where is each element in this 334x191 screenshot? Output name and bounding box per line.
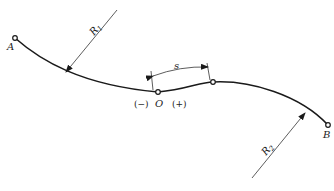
s-extension-right	[207, 63, 210, 80]
point-b-marker	[326, 123, 331, 128]
positive-side-label: (+)	[172, 99, 187, 109]
point-b-label: B	[322, 129, 330, 140]
reverse-curve-diagram: R1 R2 s A B O (−) (+)	[0, 0, 334, 191]
origin-marker	[156, 90, 161, 95]
s-dimension-arc	[153, 67, 208, 76]
radius-1-line	[66, 10, 117, 72]
point-a-label: A	[6, 41, 14, 52]
point-a-marker	[13, 36, 18, 41]
negative-side-label: (−)	[134, 99, 149, 109]
radius-2-line	[252, 113, 305, 178]
arc-length-label: s	[174, 60, 179, 71]
curve-path	[15, 38, 328, 125]
origin-label: O	[155, 98, 163, 109]
s-extension-left	[151, 71, 153, 90]
radius-2-label: R2	[258, 141, 277, 160]
point-s-marker	[211, 80, 216, 85]
radius-1-label: R1	[86, 21, 104, 39]
